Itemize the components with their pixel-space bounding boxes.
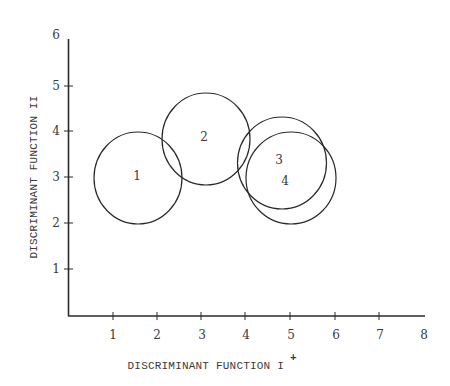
discriminant-chart: 1 2 3 4 5 6 7 8 1 2 3 4 5 6 1 2 3 4 DISC… bbox=[0, 0, 450, 386]
x-tick-label: 2 bbox=[153, 328, 161, 342]
x-tick-label: 8 bbox=[420, 328, 428, 342]
group-circles bbox=[94, 93, 336, 224]
x-tick-label: 3 bbox=[198, 328, 206, 342]
x-axis-title: DISCRIMINANT FUNCTION I bbox=[128, 360, 284, 372]
group-label-3: 3 bbox=[275, 153, 283, 167]
y-tick-label: 6 bbox=[52, 28, 60, 42]
group-label-1: 1 bbox=[133, 169, 141, 183]
y-tick-label: 2 bbox=[52, 216, 60, 230]
group-label-4: 4 bbox=[281, 174, 289, 188]
y-tick-label: 3 bbox=[52, 170, 60, 184]
y-axis-title: DISCRIMINANT FUNCTION II bbox=[28, 95, 40, 258]
x-axis-title-superscript: + bbox=[290, 352, 297, 364]
x-tick-label: 4 bbox=[242, 328, 250, 342]
x-tick-label: 5 bbox=[287, 328, 295, 342]
x-tick-labels: 1 2 3 4 5 6 7 8 bbox=[109, 328, 428, 342]
y-tick-labels: 1 2 3 4 5 6 bbox=[52, 28, 60, 276]
x-tick-label: 7 bbox=[376, 328, 384, 342]
y-tick-label: 1 bbox=[52, 262, 60, 276]
x-tick-label: 6 bbox=[332, 328, 340, 342]
y-tick-label: 4 bbox=[52, 124, 60, 138]
group-circle-4 bbox=[246, 132, 336, 224]
group-label-2: 2 bbox=[200, 130, 208, 144]
x-tick-label: 1 bbox=[109, 328, 117, 342]
y-tick-label: 5 bbox=[52, 79, 60, 93]
